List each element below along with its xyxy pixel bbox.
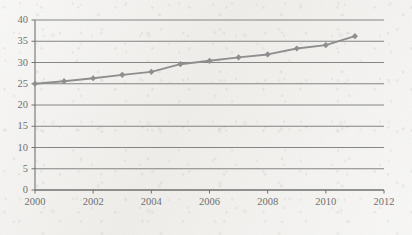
x-axis-tick-label: 2010 [306, 197, 346, 208]
data-point-marker [148, 69, 154, 75]
x-axis-tick-label: 2012 [364, 197, 404, 208]
data-point-marker [119, 72, 125, 78]
chart-page: 0510152025303540 20002002200420062008201… [0, 0, 412, 235]
x-axis-tick-label: 2002 [73, 197, 113, 208]
data-point-marker [294, 45, 300, 51]
x-axis-tick-label: 2008 [248, 197, 288, 208]
data-point-marker [323, 42, 329, 48]
data-point-marker [265, 51, 271, 57]
data-line [35, 36, 355, 84]
data-point-marker [352, 33, 358, 39]
gridlines [35, 20, 384, 190]
y-axis-tick-label: 0 [4, 185, 28, 196]
x-axis-tick-label: 2006 [190, 197, 230, 208]
data-point-marker [177, 61, 183, 67]
data-point-marker [32, 81, 38, 87]
data-point-marker [206, 58, 212, 64]
y-axis-tick-label: 15 [4, 121, 28, 132]
data-point-marker [235, 54, 241, 60]
y-axis-tick-label: 40 [4, 15, 28, 26]
y-axis-tick-label: 35 [4, 36, 28, 47]
y-axis-tick-label: 20 [4, 100, 28, 111]
y-axis-tick-label: 10 [4, 143, 28, 154]
y-axis-tick-label: 5 [4, 164, 28, 175]
y-axis-tick-label: 25 [4, 79, 28, 90]
data-point-marker [90, 75, 96, 81]
x-axis-tick-label: 2004 [131, 197, 171, 208]
x-axis-tick-label: 2000 [15, 197, 55, 208]
y-axis-tick-label: 30 [4, 58, 28, 69]
